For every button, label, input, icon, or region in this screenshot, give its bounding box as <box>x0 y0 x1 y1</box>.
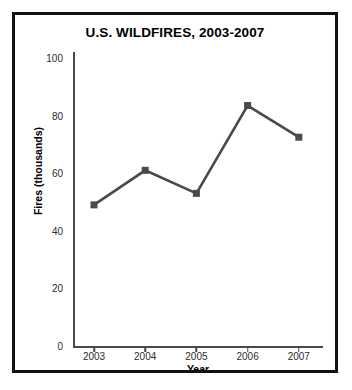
chart-title: U.S. WILDFIRES, 2003-2007 <box>15 25 335 40</box>
series-polyline <box>94 106 299 205</box>
x-axis-line <box>73 346 323 348</box>
series-markers <box>91 102 303 208</box>
x-tick-label: 2006 <box>222 351 274 362</box>
y-tick-label: 100 <box>23 53 63 64</box>
y-tick-label: 20 <box>23 283 63 294</box>
x-tick-label: 2003 <box>68 351 120 362</box>
data-point-marker <box>295 134 302 141</box>
data-point-marker <box>244 102 251 109</box>
x-tick-label: 2004 <box>119 351 171 362</box>
y-tick-label: 80 <box>23 110 63 121</box>
chart-card: U.S. WILDFIRES, 2003-2007 Fires (thousan… <box>12 12 338 373</box>
y-tick-label: 60 <box>23 168 63 179</box>
x-tick-label: 2007 <box>273 351 325 362</box>
data-point-marker <box>91 201 98 208</box>
series-line-chart <box>15 15 335 370</box>
y-tick-label: 0 <box>23 341 63 352</box>
x-tick-label: 2005 <box>170 351 222 362</box>
y-tick-label: 40 <box>23 225 63 236</box>
y-axis-line <box>73 52 75 348</box>
data-point-marker <box>193 190 200 197</box>
plot-area: U.S. WILDFIRES, 2003-2007 Fires (thousan… <box>15 15 335 370</box>
x-axis-title: Year <box>73 363 323 370</box>
data-point-marker <box>142 167 149 174</box>
